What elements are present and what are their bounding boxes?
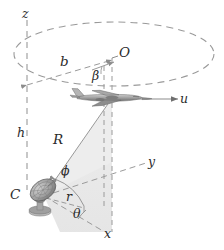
- radar-aircraft-diagram: z b O β u h R y ϕ C r θ x: [0, 0, 224, 250]
- label-height-h: h: [17, 125, 25, 140]
- diagram-canvas: z b O β u h R y ϕ C r θ x: [0, 0, 224, 250]
- label-angle-theta: θ: [73, 206, 81, 221]
- label-ground-r: r: [66, 189, 73, 204]
- label-z-axis: z: [21, 6, 29, 21]
- label-range-R: R: [52, 131, 63, 147]
- label-angle-phi: ϕ: [61, 163, 70, 178]
- label-station-C: C: [10, 186, 21, 202]
- label-velocity-u: u: [180, 91, 188, 106]
- origin-point-marker: [112, 56, 118, 58]
- flight-path-ellipse: [14, 22, 214, 86]
- label-radius-b: b: [60, 53, 69, 69]
- radius-b-line: [27, 60, 112, 85]
- label-angle-beta: β: [91, 68, 99, 83]
- label-x-axis: x: [104, 226, 111, 241]
- label-y-axis: y: [147, 154, 156, 169]
- label-origin-O: O: [119, 44, 130, 60]
